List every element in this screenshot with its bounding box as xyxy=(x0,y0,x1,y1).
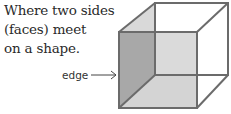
right-arrow-icon xyxy=(91,71,116,79)
cube-diagram xyxy=(0,0,231,114)
front-face xyxy=(155,32,197,75)
